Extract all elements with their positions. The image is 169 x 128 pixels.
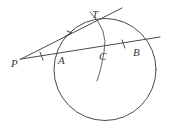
point-label-B: B [133,46,140,58]
geometry-canvas: P A C B T [0,0,169,128]
point-label-A: A [57,54,65,66]
point-label-P: P [10,57,18,69]
tick-on-secant-CB [122,40,125,48]
geometry-diagram: P A C B T [0,0,169,128]
point-label-T: T [92,8,99,20]
point-label-C: C [99,50,107,62]
